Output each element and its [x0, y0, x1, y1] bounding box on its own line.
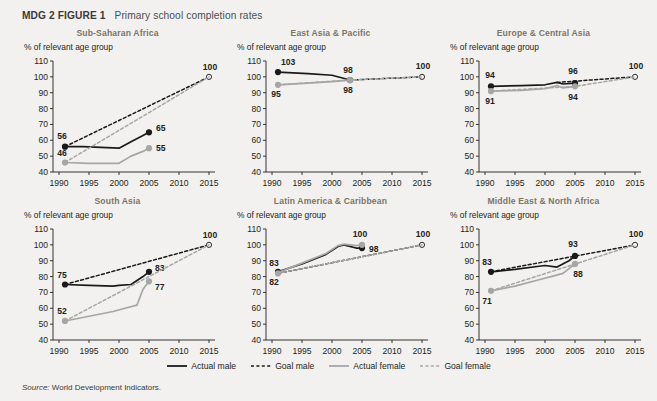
x-tick-label: 2000 — [322, 178, 341, 188]
data-point-label: 100 — [629, 229, 644, 239]
plot-area: 4050607080901001101990199520002005201020… — [225, 52, 436, 196]
source-note: Source: World Development Indicators. — [22, 383, 161, 392]
data-point-label: 94 — [568, 92, 578, 102]
data-point-label: 52 — [57, 306, 67, 316]
y-tick-label: 50 — [464, 151, 474, 161]
y-tick-label: 70 — [38, 119, 48, 129]
y-tick-label: 80 — [251, 272, 261, 282]
x-tick-label: 2005 — [139, 178, 158, 188]
y-tick-label: 80 — [464, 104, 474, 114]
plot-area: 4050607080901001101990199520002005201020… — [12, 220, 223, 364]
y-tick-label: 90 — [251, 88, 261, 98]
x-tick-label: 2010 — [595, 178, 614, 188]
figure-number: MDG 2 FIGURE 1 — [22, 10, 105, 21]
data-point-label: 100 — [353, 229, 368, 239]
data-point-label: 100 — [203, 230, 218, 240]
y-tick-label: 60 — [464, 135, 474, 145]
data-point-label: 91 — [485, 96, 495, 106]
y-tick-label: 40 — [38, 167, 48, 177]
x-tick-label: 2010 — [382, 346, 401, 356]
data-point-marker — [359, 242, 365, 248]
data-point-label: 88 — [573, 269, 583, 279]
data-point-label: 98 — [369, 244, 379, 254]
panel-title: South Asia — [12, 196, 223, 206]
data-point-label: 75 — [57, 270, 67, 280]
y-tick-label: 100 — [34, 72, 49, 82]
x-tick-label: 1995 — [79, 178, 98, 188]
data-point-label: 93 — [568, 239, 578, 249]
y-tick-label: 40 — [251, 167, 261, 177]
y-tick-label: 110 — [34, 224, 48, 234]
x-tick-label: 2000 — [322, 346, 341, 356]
y-tick-label: 50 — [464, 319, 474, 329]
data-point-label: 82 — [269, 277, 279, 287]
series-line — [65, 272, 149, 286]
data-point-label: 71 — [482, 296, 492, 306]
chart-panel: Europe & Central Asia% of relevant age g… — [438, 28, 649, 196]
series-line — [65, 245, 209, 285]
x-tick-label: 1990 — [49, 346, 68, 356]
legend-swatch-icon — [250, 362, 272, 370]
data-point-label: 95 — [271, 89, 281, 99]
y-tick-label: 80 — [38, 104, 48, 114]
y-tick-label: 40 — [251, 335, 261, 345]
y-tick-label: 50 — [38, 319, 48, 329]
y-tick-label: 60 — [251, 135, 261, 145]
y-tick-label: 60 — [38, 135, 48, 145]
x-tick-label: 2000 — [535, 178, 554, 188]
legend-item: Actual female — [328, 360, 405, 371]
y-tick-label: 80 — [38, 272, 48, 282]
data-point-label: 83 — [269, 258, 279, 268]
y-tick-label: 70 — [38, 287, 48, 297]
y-tick-label: 50 — [251, 319, 261, 329]
source-label: Source: — [22, 383, 50, 392]
x-tick-label: 2000 — [109, 178, 128, 188]
x-tick-label: 2000 — [535, 346, 554, 356]
y-tick-label: 40 — [38, 335, 48, 345]
y-tick-label: 60 — [464, 303, 474, 313]
legend-item: Actual male — [166, 360, 236, 371]
series-line — [65, 77, 209, 163]
series-line — [278, 245, 422, 274]
x-tick-label: 1995 — [292, 178, 311, 188]
x-tick-label: 2015 — [199, 178, 218, 188]
y-tick-label: 90 — [251, 256, 261, 266]
data-point-label: 100 — [416, 61, 431, 71]
plot-area: 4050607080901001101990199520002005201020… — [438, 220, 649, 364]
chart-panel: South Asia% of relevant age group4050607… — [12, 196, 223, 364]
y-tick-label: 70 — [464, 287, 474, 297]
data-point-label: 100 — [203, 62, 218, 72]
y-axis-label: % of relevant age group — [237, 42, 326, 52]
chart-panel: Latin America & Caribbean% of relevant a… — [225, 196, 436, 364]
data-point-label: 77 — [155, 282, 165, 292]
y-tick-label: 70 — [464, 119, 474, 129]
data-point-label: 83 — [482, 257, 492, 267]
figure-header: MDG 2 FIGURE 1Primary school completion … — [22, 9, 263, 21]
y-tick-label: 100 — [460, 72, 475, 82]
data-point-label: 103 — [281, 57, 296, 67]
data-point-marker — [146, 129, 152, 135]
data-point-label: 98 — [343, 65, 353, 75]
data-point-label: 94 — [485, 70, 495, 80]
y-tick-label: 60 — [251, 303, 261, 313]
data-point-marker — [275, 69, 281, 75]
x-tick-label: 1990 — [262, 346, 281, 356]
y-tick-label: 100 — [247, 240, 262, 250]
x-tick-label: 2005 — [352, 346, 371, 356]
plot-area: 4050607080901001101990199520002005201020… — [225, 220, 436, 364]
legend-swatch-icon — [166, 362, 188, 370]
y-tick-label: 40 — [464, 167, 474, 177]
series-line — [65, 148, 149, 163]
panel-title: Middle East & North Africa — [438, 196, 649, 206]
x-tick-label: 1990 — [49, 178, 68, 188]
chart-panel: Sub-Saharan Africa% of relevant age grou… — [12, 28, 223, 196]
figure-root: MDG 2 FIGURE 1Primary school completion … — [0, 0, 657, 401]
y-tick-label: 100 — [34, 240, 49, 250]
y-tick-label: 110 — [247, 56, 261, 66]
data-point-label: 56 — [57, 131, 67, 141]
data-point-label: 46 — [57, 148, 67, 158]
series-line — [65, 245, 209, 321]
data-point-label: 98 — [343, 85, 353, 95]
x-tick-label: 2010 — [169, 178, 188, 188]
y-tick-label: 110 — [460, 224, 474, 234]
